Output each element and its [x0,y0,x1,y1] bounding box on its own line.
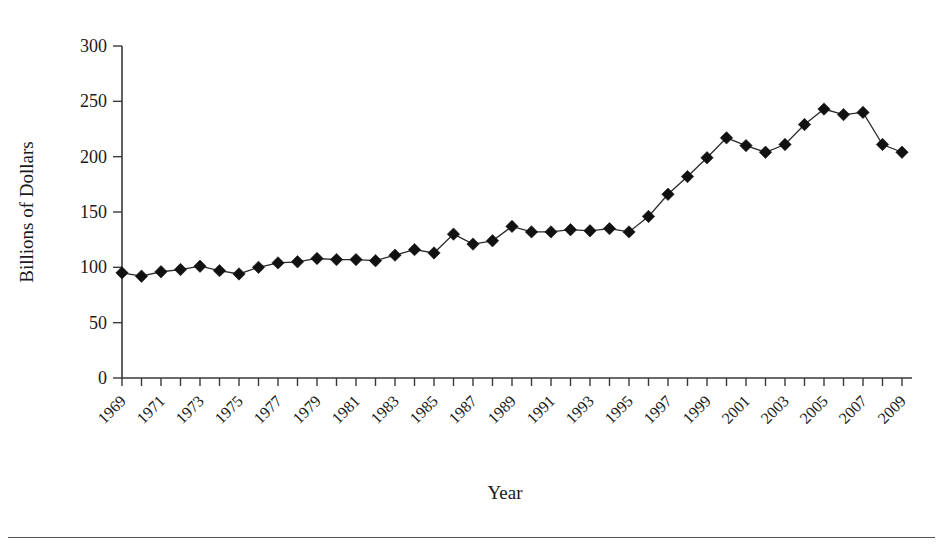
y-tick-label: 250 [80,91,107,111]
data-point-marker [213,264,225,276]
x-tick-label: 2003 [757,392,792,427]
x-tick-label: 2005 [796,392,831,427]
data-point-marker [506,220,518,232]
y-tick-label: 0 [98,368,107,388]
y-axis-title: Billions of Dollars [16,141,37,282]
data-point-marker [350,253,362,265]
data-point-marker [155,266,167,278]
x-tick-label: 1971 [133,392,168,427]
x-tick-label: 1997 [640,392,675,427]
y-tick-label: 300 [80,36,107,56]
y-tick-label: 200 [80,147,107,167]
data-point-marker [857,106,869,118]
data-point-marker [291,256,303,268]
x-tick-label: 1987 [445,392,480,427]
x-tick-label: 1991 [523,392,558,427]
data-point-marker [408,243,420,255]
data-point-marker [837,108,849,120]
line-chart: Billions of Dollars 050100150200250300 1… [0,0,943,547]
y-axis-title-text: Billions of Dollars [16,141,37,282]
x-tick-label: 1975 [211,392,246,427]
y-tick-label: 100 [80,257,107,277]
x-tick-label: 2001 [718,392,753,427]
y-axis-ticks: 050100150200250300 [80,36,122,388]
data-point-marker [135,270,147,282]
x-tick-label: 1985 [406,392,441,427]
data-point-marker [252,261,264,273]
data-point-marker [545,226,557,238]
series-markers [116,103,908,283]
chart-figure: Billions of Dollars 050100150200250300 1… [0,0,943,547]
data-point-marker [389,249,401,261]
x-tick-label: 2007 [835,392,870,427]
axis-lines [122,46,912,378]
y-tick-label: 50 [89,313,107,333]
x-tick-label: 1989 [484,392,519,427]
data-point-marker [603,222,615,234]
data-point-marker [896,146,908,158]
series-line [122,109,902,276]
data-point-marker [272,257,284,269]
x-axis-ticks: 1969197119731975197719791981198319851987… [94,378,909,427]
footer-divider [8,537,935,538]
data-point-marker [564,224,576,236]
x-tick-label: 1981 [328,392,363,427]
x-tick-label: 1969 [94,392,129,427]
x-axis-title-text: Year [487,482,523,503]
data-point-marker [486,235,498,247]
data-point-marker [233,268,245,280]
data-point-marker [369,254,381,266]
x-tick-label: 1979 [289,392,324,427]
data-point-marker [759,146,771,158]
data-point-marker [876,138,888,150]
data-point-marker [116,267,128,279]
data-point-marker [330,253,342,265]
data-point-marker [584,225,596,237]
data-point-marker [467,238,479,250]
x-tick-label: 1995 [601,392,636,427]
data-point-marker [174,263,186,275]
y-tick-label: 150 [80,202,107,222]
x-tick-label: 1977 [250,392,285,427]
x-tick-label: 1993 [562,392,597,427]
data-point-marker [525,226,537,238]
data-point-marker [623,226,635,238]
x-tick-label: 2009 [874,392,909,427]
data-point-marker [740,139,752,151]
x-tick-label: 1973 [172,392,207,427]
data-point-marker [194,260,206,272]
data-point-marker [311,252,323,264]
x-tick-label: 1983 [367,392,402,427]
x-tick-label: 1999 [679,392,714,427]
data-point-marker [818,103,830,115]
